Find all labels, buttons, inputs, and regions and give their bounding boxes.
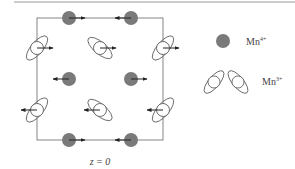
mn4-ion (115, 133, 138, 147)
legend-mn3-icon (200, 67, 251, 96)
mn3-ion (84, 33, 116, 62)
mn4-ion (53, 72, 76, 86)
mn3-ion (22, 32, 53, 63)
legend-mn3-label: Mn3+ (262, 76, 283, 87)
mn3-ion (21, 94, 52, 125)
charge-orbital-order-diagram: Mn4+ Mn3+ z = 0 (0, 0, 295, 169)
legend-mn4-icon (216, 34, 230, 48)
layer-label: z = 0 (89, 156, 111, 167)
mn4-ion (115, 11, 138, 25)
lattice (21, 11, 179, 147)
legend: Mn4+ Mn3+ (200, 34, 283, 97)
mn3-ion (84, 95, 116, 124)
mn4-ion (124, 72, 147, 86)
mn3-ion (147, 94, 178, 125)
mn4-ion (62, 11, 85, 25)
mn4-ion (62, 133, 85, 147)
mn3-ion (148, 32, 179, 63)
legend-mn4-label: Mn4+ (246, 36, 267, 47)
